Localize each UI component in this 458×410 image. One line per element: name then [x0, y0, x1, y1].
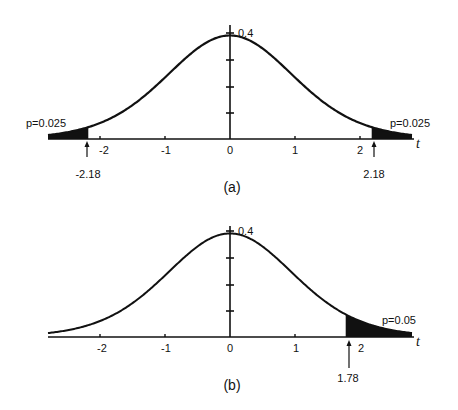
right-p-label: p=0.025 [390, 117, 430, 129]
x-axis-label: t [416, 334, 421, 349]
left-p-label: p=0.025 [26, 117, 66, 129]
panel-caption: (a) [223, 179, 240, 195]
x-axis-label: t [416, 136, 421, 151]
left-crit-arrow-icon [85, 141, 90, 157]
x-tick-label: -1 [161, 144, 171, 156]
panel-caption: (b) [223, 377, 240, 393]
x-tick-label: -2 [99, 144, 109, 156]
x-tick-label: 1 [293, 342, 299, 354]
x-tick-label: 0 [227, 342, 233, 354]
right-p-label: p=0.05 [382, 314, 416, 326]
x-tick-label: -2 [97, 342, 107, 354]
x-tick-label: 1 [292, 144, 298, 156]
y-tick-label: 0.4 [238, 225, 253, 237]
x-tick-label: -1 [161, 342, 171, 354]
panel-a: 0.4 -2 -1 0 1 2 t p=0.025 p=0.025 -2.18 … [26, 25, 430, 195]
x-tick-label: 2 [358, 342, 364, 354]
panel-b: 0.4 -2 -1 0 1 2 t p=0.05 1.78 (b) [48, 225, 421, 393]
x-tick-label: 0 [227, 144, 233, 156]
right-crit-label: 2.18 [363, 168, 384, 180]
crit-arrow-icon [347, 340, 352, 368]
x-tick-label: 2 [357, 144, 363, 156]
right-crit-arrow-icon [372, 141, 377, 157]
left-crit-label: -2.18 [75, 168, 100, 180]
figure: 0.4 -2 -1 0 1 2 t p=0.025 p=0.025 -2.18 … [0, 0, 458, 410]
crit-label: 1.78 [337, 372, 358, 384]
y-tick-label: 0.4 [238, 27, 253, 39]
